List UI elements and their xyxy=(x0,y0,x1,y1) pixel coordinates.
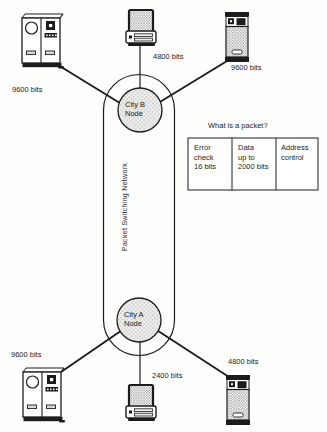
packet-cell-data-line3: 2000 bits xyxy=(238,162,269,171)
packet-cell-address-line1: Address xyxy=(281,143,309,152)
packet-cell-data-line1: Data xyxy=(238,143,255,152)
packet-cell-error-line1: Error xyxy=(194,143,211,152)
network-backbone-label: Packet Switching Network xyxy=(121,163,129,251)
node-city-a-label-line1: City A xyxy=(124,310,144,319)
label-bottom-left-rate: 9600 bits xyxy=(11,350,42,359)
link-line-bottom-right xyxy=(152,327,229,377)
node-city-b-label-line1: City B xyxy=(125,100,145,109)
terminal-icon-bottom-middle xyxy=(126,385,156,421)
packet-cell-error-line3: 16 bits xyxy=(194,162,216,171)
scanned-diagram-page: Packet Switching Network City B Node Cit… xyxy=(0,0,327,432)
label-top-middle-rate: 4800 bits xyxy=(153,52,184,61)
tower-icon-bottom-right xyxy=(226,375,250,425)
label-bottom-right-rate: 4800 bits xyxy=(228,357,259,366)
packet-cell-data-line2: up to xyxy=(238,153,255,162)
packet-table-title: What is a packet? xyxy=(208,121,268,130)
mainframe-icon-top-left xyxy=(22,14,64,69)
label-top-right-rate: 9600 bits xyxy=(231,63,262,72)
packet-table: What is a packet? Error check 16 bits Da… xyxy=(188,121,318,190)
label-top-left-rate: 9600 bits xyxy=(12,85,43,94)
packet-cell-error-line2: check xyxy=(194,153,214,162)
packet-cell-address-line2: control xyxy=(281,153,304,162)
label-bottom-middle-rate: 2400 bits xyxy=(152,371,183,380)
mainframe-icon-bottom-left xyxy=(23,368,65,423)
terminal-icon-top-middle xyxy=(126,10,156,46)
network-diagram: Packet Switching Network City B Node Cit… xyxy=(0,0,327,432)
node-city-a-label-line2: Node xyxy=(124,319,142,328)
node-city-b-label-line2: Node xyxy=(125,109,143,118)
tower-icon-top-right xyxy=(225,12,249,62)
link-line-top-left xyxy=(58,65,128,108)
link-line-top-right xyxy=(155,61,227,105)
